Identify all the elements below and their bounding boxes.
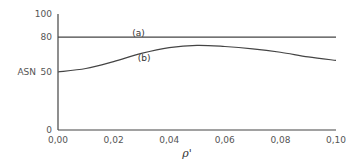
x-tick-label: 0,08 [270, 135, 290, 145]
y-tick-label: 50 [41, 67, 53, 77]
x-tick-label: 0,02 [104, 135, 124, 145]
y-tick-label: 0 [46, 125, 52, 135]
chart: 05080100ASN0,000,020,040,060,080,10ρ'(a)… [0, 0, 359, 164]
y-tick-label: 100 [35, 9, 52, 19]
series-lines [58, 37, 336, 72]
y-axis-title: ASN [17, 67, 36, 77]
labels: 05080100ASN0,000,020,040,060,080,10ρ'(a)… [17, 9, 346, 160]
series-line-b [58, 45, 336, 72]
x-tick-label: 0,06 [215, 135, 235, 145]
series-label-a: (a) [132, 28, 145, 38]
x-tick-label: 0,04 [159, 135, 179, 145]
x-axis-title: ρ' [181, 147, 192, 160]
x-tick-label: 0,10 [326, 135, 346, 145]
x-tick-label: 0,00 [48, 135, 68, 145]
y-tick-label: 80 [41, 32, 53, 42]
axes [58, 14, 336, 130]
series-label-b: (b) [138, 53, 151, 63]
